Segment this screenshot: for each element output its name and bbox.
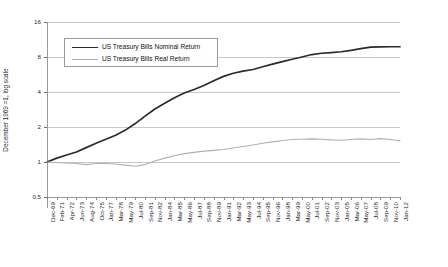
legend-item-real: US Treasury Bills Real Return	[72, 54, 190, 64]
legend-label-nominal: US Treasury Bills Nominal Return	[102, 44, 200, 51]
chart-container: Cumulative Return December 1969 =1, log …	[0, 0, 448, 267]
series-line-real	[47, 139, 400, 167]
legend-label-real: US Treasury Bills Real Return	[102, 56, 190, 63]
legend-swatch-nominal-icon	[72, 47, 98, 48]
legend-item-nominal: US Treasury Bills Nominal Return	[72, 42, 200, 52]
legend: US Treasury Bills Nominal Return US Trea…	[64, 38, 218, 67]
legend-swatch-real-icon	[72, 59, 98, 60]
